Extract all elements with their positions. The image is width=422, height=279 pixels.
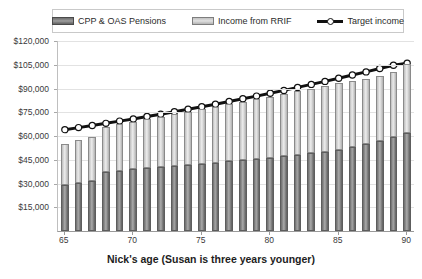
bar-segment-cpp-oas-pensions[interactable] <box>362 144 370 231</box>
bar-segment-cpp-oas-pensions[interactable] <box>129 169 137 231</box>
legend-item-target-income[interactable]: Target income <box>317 17 404 26</box>
stacked-bar[interactable] <box>61 144 69 231</box>
bar-segment-cpp-oas-pensions[interactable] <box>102 172 110 231</box>
bar-segment-cpp-oas-pensions[interactable] <box>349 147 357 231</box>
target-income-marker[interactable] <box>267 90 273 96</box>
bar-segment-income-from-rrif[interactable] <box>266 97 274 158</box>
stacked-bar[interactable] <box>321 86 329 231</box>
stacked-bar[interactable] <box>171 114 179 231</box>
bar-segment-income-from-rrif[interactable] <box>157 117 165 167</box>
bar-segment-cpp-oas-pensions[interactable] <box>307 153 315 231</box>
bar-segment-cpp-oas-pensions[interactable] <box>116 171 124 231</box>
bar-segment-cpp-oas-pensions[interactable] <box>171 166 179 231</box>
stacked-bar[interactable] <box>266 97 274 231</box>
target-income-marker[interactable] <box>363 69 369 75</box>
target-income-marker[interactable] <box>117 118 123 124</box>
target-income-marker[interactable] <box>253 93 259 99</box>
bar-segment-income-from-rrif[interactable] <box>362 79 370 144</box>
bar-segment-income-from-rrif[interactable] <box>171 114 179 166</box>
stacked-bar[interactable] <box>116 124 124 231</box>
bar-segment-cpp-oas-pensions[interactable] <box>225 161 233 231</box>
target-income-marker[interactable] <box>336 75 342 81</box>
bar-segment-cpp-oas-pensions[interactable] <box>212 163 220 231</box>
legend-label-income-from-rrif: Income from RRIF <box>218 17 292 26</box>
stacked-bar[interactable] <box>102 127 110 231</box>
target-income-marker[interactable] <box>349 72 355 78</box>
stacked-bar[interactable] <box>362 79 370 231</box>
stacked-bar[interactable] <box>253 99 261 231</box>
bar-segment-cpp-oas-pensions[interactable] <box>253 159 261 231</box>
bar-segment-cpp-oas-pensions[interactable] <box>143 168 151 231</box>
bar-segment-income-from-rrif[interactable] <box>321 86 329 152</box>
bar-segment-cpp-oas-pensions[interactable] <box>184 165 192 231</box>
bar-segment-cpp-oas-pensions[interactable] <box>294 155 302 231</box>
bar-segment-income-from-rrif[interactable] <box>61 144 69 185</box>
y-axis-tick-label: $90,000 <box>0 84 53 93</box>
target-income-marker[interactable] <box>103 120 109 126</box>
bar-segment-income-from-rrif[interactable] <box>212 107 220 163</box>
x-axis-tick-mark <box>132 232 133 235</box>
bar-segment-cpp-oas-pensions[interactable] <box>280 156 288 231</box>
stacked-bar[interactable] <box>143 119 151 231</box>
bar-segment-cpp-oas-pensions[interactable] <box>239 160 247 231</box>
bar-segment-income-from-rrif[interactable] <box>294 91 302 154</box>
bar-segment-income-from-rrif[interactable] <box>129 122 137 170</box>
stacked-bar[interactable] <box>403 64 411 231</box>
stacked-bar[interactable] <box>307 89 315 231</box>
stacked-bar[interactable] <box>349 81 357 231</box>
bar-segment-cpp-oas-pensions[interactable] <box>61 185 69 231</box>
target-income-marker[interactable] <box>62 127 68 133</box>
stacked-bar[interactable] <box>157 117 165 231</box>
stacked-bar[interactable] <box>184 112 192 231</box>
stacked-bar[interactable] <box>239 102 247 231</box>
bar-segment-income-from-rrif[interactable] <box>116 124 124 170</box>
bar-segment-income-from-rrif[interactable] <box>390 72 398 137</box>
target-income-marker[interactable] <box>377 65 383 71</box>
target-income-marker[interactable] <box>308 81 314 87</box>
legend-item-income-from-rrif[interactable]: Income from RRIF <box>192 17 292 26</box>
stacked-bar[interactable] <box>280 94 288 231</box>
bar-segment-income-from-rrif[interactable] <box>239 102 247 160</box>
bar-segment-income-from-rrif[interactable] <box>403 64 411 133</box>
bar-segment-cpp-oas-pensions[interactable] <box>266 158 274 231</box>
bar-segment-cpp-oas-pensions[interactable] <box>157 167 165 231</box>
bar-segment-income-from-rrif[interactable] <box>349 81 357 147</box>
bar-segment-income-from-rrif[interactable] <box>102 127 110 171</box>
stacked-bar[interactable] <box>390 72 398 231</box>
stacked-bar[interactable] <box>88 137 96 231</box>
bar-segment-cpp-oas-pensions[interactable] <box>75 183 83 231</box>
bar-segment-income-from-rrif[interactable] <box>143 119 151 168</box>
target-income-marker[interactable] <box>89 122 95 128</box>
bar-segment-income-from-rrif[interactable] <box>75 140 83 182</box>
bar-segment-cpp-oas-pensions[interactable] <box>390 137 398 231</box>
stacked-bar[interactable] <box>75 140 83 231</box>
stacked-bar[interactable] <box>212 107 220 231</box>
bar-segment-cpp-oas-pensions[interactable] <box>335 150 343 231</box>
bar-segment-cpp-oas-pensions[interactable] <box>198 164 206 231</box>
bar-segment-cpp-oas-pensions[interactable] <box>321 152 329 231</box>
bar-segment-income-from-rrif[interactable] <box>198 109 206 164</box>
bar-segment-income-from-rrif[interactable] <box>280 94 288 156</box>
bar-segment-income-from-rrif[interactable] <box>225 104 233 161</box>
x-axis-tick-label: 65 <box>59 236 68 245</box>
stacked-bar[interactable] <box>376 76 384 231</box>
stacked-bar[interactable] <box>225 104 233 231</box>
legend-item-cpp-oas-pensions[interactable]: CPP & OAS Pensions <box>52 17 166 26</box>
bar-segment-income-from-rrif[interactable] <box>335 83 343 150</box>
stacked-bar[interactable] <box>129 122 137 231</box>
bar-segment-cpp-oas-pensions[interactable] <box>88 181 96 231</box>
bar-segment-income-from-rrif[interactable] <box>307 89 315 154</box>
bar-segment-income-from-rrif[interactable] <box>253 99 261 159</box>
bar-segment-income-from-rrif[interactable] <box>376 76 384 141</box>
bar-segment-income-from-rrif[interactable] <box>184 112 192 165</box>
target-income-marker[interactable] <box>295 84 301 90</box>
bar-segment-cpp-oas-pensions[interactable] <box>403 133 411 231</box>
stacked-bar[interactable] <box>294 91 302 231</box>
target-income-marker[interactable] <box>75 125 81 131</box>
stacked-bar[interactable] <box>335 83 343 231</box>
target-income-marker[interactable] <box>322 78 328 84</box>
bar-segment-income-from-rrif[interactable] <box>88 137 96 181</box>
stacked-bar[interactable] <box>198 109 206 231</box>
bar-segment-cpp-oas-pensions[interactable] <box>376 141 384 231</box>
y-axis-tick-mark <box>54 160 57 161</box>
